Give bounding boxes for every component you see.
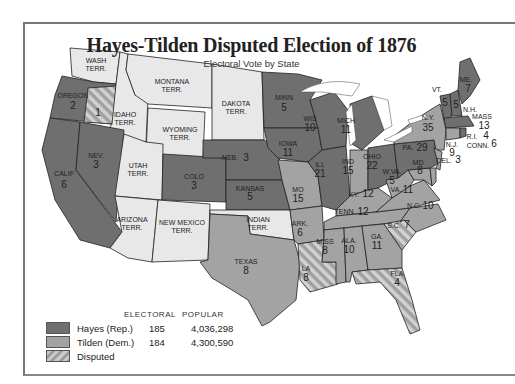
svg-text:11: 11 [283,147,294,158]
tilden-swatch [46,336,70,348]
map-subtitle: Electoral Vote by State [0,58,503,69]
svg-text:11: 11 [341,124,352,135]
svg-text:TERR.: TERR. [172,227,193,234]
svg-text:PA.: PA. [403,144,414,151]
svg-text:N.H.: N.H. [463,106,477,113]
svg-text:TERR.: TERR. [226,108,247,115]
svg-text:MONTANA: MONTANA [155,78,190,85]
svg-text:CONN.: CONN. [467,142,490,149]
svg-text:IOWA: IOWA [279,140,298,147]
svg-text:R.I.: R.I. [467,133,478,140]
legend-header-popular: POPULAR [182,310,224,319]
svg-text:WIS: WIS [303,115,317,122]
svg-text:15: 15 [342,165,354,176]
svg-text:5: 5 [442,97,448,108]
svg-text:10: 10 [343,244,355,255]
legend-popular: 4,300,590 [191,337,233,348]
svg-text:12: 12 [357,206,369,217]
svg-text:ARK.: ARK. [292,220,308,227]
svg-text:22: 22 [366,160,378,171]
svg-text:5: 5 [453,99,459,110]
svg-text:ILL: ILL [315,161,325,168]
svg-text:8: 8 [322,245,328,256]
svg-text:WYOMING: WYOMING [163,126,198,133]
disputed-swatch [46,350,70,362]
svg-text:IND: IND [342,158,354,165]
svg-text:TERR.: TERR. [162,86,183,93]
svg-text:MASS: MASS [472,113,492,120]
svg-text:TERR.: TERR. [115,119,136,126]
svg-text:KY.: KY. [349,191,359,198]
svg-text:8: 8 [417,165,423,176]
svg-text:ARIZONA: ARIZONA [116,216,147,223]
svg-text:MINN: MINN [275,94,293,101]
svg-text:10: 10 [422,200,434,211]
svg-text:1: 1 [95,107,101,118]
svg-text:9: 9 [449,147,455,158]
svg-text:ALA.: ALA. [341,237,356,244]
svg-text:VT.: VT. [432,86,442,93]
svg-text:MISS: MISS [316,238,333,245]
svg-text:4: 4 [483,130,489,141]
svg-text:CALIF: CALIF [54,170,74,177]
svg-text:NEV.: NEV. [88,152,104,159]
svg-text:3: 3 [455,154,461,165]
svg-text:TERR.: TERR. [122,224,143,231]
legend-label: Tilden (Dem.) [77,337,149,348]
svg-text:8: 8 [243,265,249,276]
svg-text:COLO: COLO [184,173,204,180]
svg-text:8: 8 [303,272,309,283]
legend-header-electoral: ELECTORAL [124,310,176,319]
svg-text:DEL.: DEL. [436,157,452,164]
svg-text:12: 12 [362,188,374,199]
svg-text:OHIO: OHIO [363,153,381,160]
svg-text:5: 5 [281,102,287,113]
svg-text:6: 6 [297,227,303,238]
svg-text:5: 5 [247,191,253,202]
svg-text:5: 5 [389,175,395,186]
legend-row-disputed: Disputed [46,350,115,362]
svg-text:NEB.: NEB. [222,154,238,161]
svg-text:DAKOTA: DAKOTA [222,100,251,107]
legend-row-tilden: Tilden (Dem.) 184 4,300,590 [46,336,233,348]
svg-text:N.Y.: N.Y. [422,114,435,121]
region-conn [446,128,460,140]
svg-text:7: 7 [465,83,471,94]
svg-text:ME.: ME. [460,76,473,83]
svg-text:6: 6 [61,179,67,190]
svg-text:LA: LA [302,265,311,272]
svg-text:29: 29 [416,142,428,153]
svg-text:N.C.: N.C. [407,202,421,209]
svg-text:TERR.: TERR. [170,134,191,141]
region-ri [460,128,466,138]
svg-text:7: 7 [404,219,410,230]
legend-electoral: 184 [149,337,191,348]
svg-text:IDAHO: IDAHO [114,111,137,118]
svg-text:FLA: FLA [391,270,404,277]
region-oregon-disputed [84,86,116,124]
svg-text:MO: MO [292,186,304,193]
svg-text:4: 4 [394,277,400,288]
svg-text:TERR.: TERR. [128,170,149,177]
svg-text:INDIAN: INDIAN [246,216,270,223]
legend-label: Hayes (Rep.) [77,323,149,334]
svg-text:TERR.: TERR. [248,224,269,231]
svg-text:TENN.: TENN. [335,208,356,215]
svg-text:S.C.: S.C. [387,222,401,229]
legend-row-hayes: Hayes (Rep.) 185 4,036,298 [46,322,233,334]
hayes-swatch [46,322,70,334]
svg-text:21: 21 [314,168,326,179]
svg-text:3: 3 [93,159,99,170]
svg-text:11: 11 [372,240,383,251]
svg-text:NEW MEXICO: NEW MEXICO [159,219,205,226]
svg-text:UTAH: UTAH [129,162,148,169]
region-fla [352,268,420,334]
svg-text:3: 3 [191,180,197,191]
svg-text:W.VA.: W.VA. [383,168,402,175]
svg-text:2: 2 [70,100,76,111]
region-mass [444,116,474,128]
svg-text:10: 10 [304,122,316,133]
svg-text:11: 11 [403,184,414,195]
map-title: Hayes-Tilden Disputed Election of 1876 [0,34,503,57]
svg-text:MICH: MICH [337,117,355,124]
